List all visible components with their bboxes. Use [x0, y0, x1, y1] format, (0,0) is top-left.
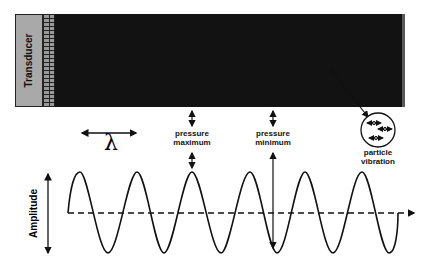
pressure-max-line2: maximum	[170, 138, 214, 147]
wavelength-symbol: λ	[96, 130, 126, 155]
pressure-min-line1: pressure	[251, 129, 295, 138]
amplitude-label: Amplitude	[28, 189, 39, 238]
pressure-max-line1: pressure	[170, 129, 214, 138]
particle-vibration-label: particle vibration	[355, 148, 401, 166]
particle-pointer-dot	[331, 70, 334, 73]
pressure-maximum-label: pressure maximum	[170, 129, 214, 147]
particle-line1: particle	[355, 148, 401, 157]
pressure-minimum-label: pressure minimum	[251, 129, 295, 147]
amplitude-label-wrap: Amplitude	[20, 173, 46, 253]
particle-circle	[361, 113, 395, 147]
pressure-min-line2: minimum	[251, 138, 295, 147]
particle-pointer-line	[332, 71, 368, 117]
particle-line2: vibration	[355, 157, 401, 166]
